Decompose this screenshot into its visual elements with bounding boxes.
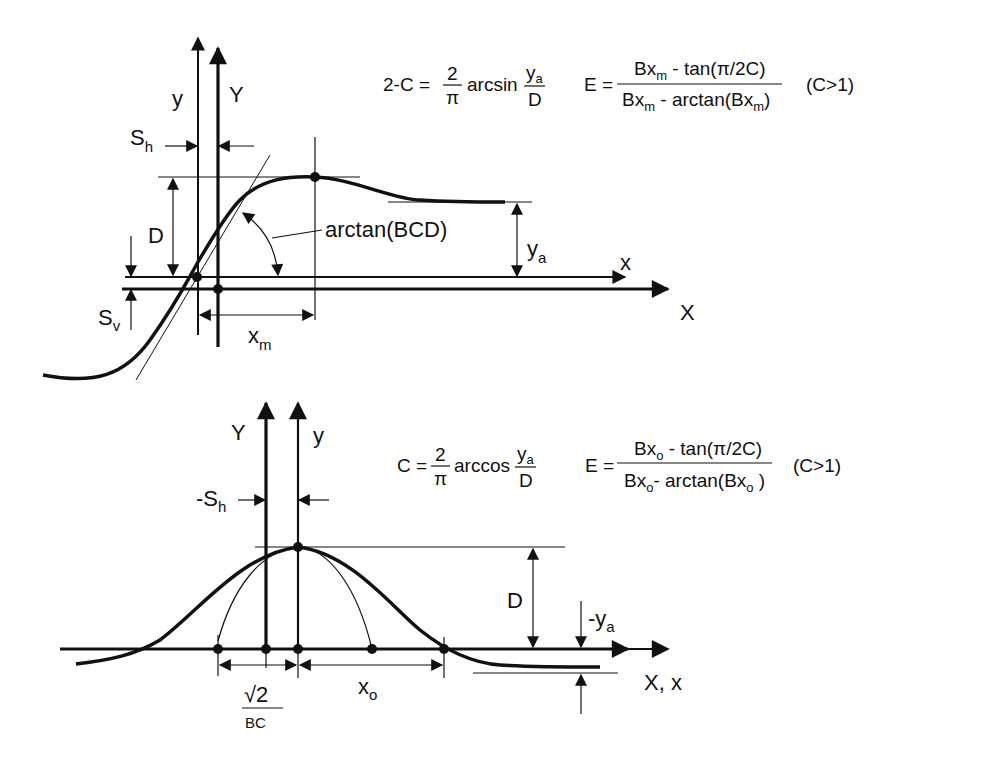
Xx-label: X, x	[644, 670, 682, 695]
local-origin-point	[192, 272, 202, 282]
zero-crossing-point	[439, 644, 449, 654]
svg-text:C =: C =	[397, 455, 427, 476]
svg-text:π: π	[446, 87, 459, 108]
equation-c-arcsin: 2-C = 2 π arcsin ya D	[383, 62, 545, 110]
bottom-diagram: -Sh √2 BC xo D -ya Y y X, x C = 2 π arcc…	[60, 403, 841, 731]
equation-e-bottom: E = Bxo - tan(π/2C) Bxo- arctan(Bxo ) (C…	[585, 438, 841, 495]
x-local-label: x	[620, 250, 631, 275]
sh-label: Sh	[130, 125, 153, 155]
width-num-label: √2	[244, 682, 268, 707]
y-local-label: y	[313, 423, 324, 448]
svg-text:D: D	[528, 89, 542, 110]
svg-text:(C>1): (C>1)	[806, 74, 854, 95]
svg-text:π: π	[434, 468, 447, 489]
slope-label: arctan(BCD)	[325, 217, 447, 242]
ya-label: -ya	[588, 606, 615, 635]
svg-text:ya: ya	[526, 62, 544, 86]
svg-text:arccos: arccos	[454, 455, 510, 476]
parabola-zero-point	[367, 644, 377, 654]
svg-text:Bxo- arctan(Bxo ): Bxo- arctan(Bxo )	[624, 470, 765, 495]
ya-label: ya	[527, 236, 547, 266]
peak-point	[310, 172, 320, 182]
peak-point	[293, 542, 303, 552]
sh-label: -Sh	[196, 486, 226, 515]
svg-text:(C>1): (C>1)	[793, 455, 841, 476]
svg-text:ya: ya	[517, 443, 535, 467]
top-diagram: Sh D Sv xm arctan(BCD) ya y Y x X 2-C = …	[43, 38, 854, 380]
width-den-label: BC	[245, 714, 266, 731]
svg-text:arcsin: arcsin	[467, 74, 518, 95]
slope-angle-arc	[243, 213, 278, 275]
Y-global-label: Y	[229, 82, 244, 107]
point-left	[213, 644, 223, 654]
svg-text:Bxm - arctan(Bxm): Bxm - arctan(Bxm)	[622, 89, 770, 114]
Y-global-label: Y	[231, 420, 246, 445]
X-global-label: X	[680, 300, 695, 325]
d-label: D	[148, 223, 164, 248]
svg-text:Bxo - tan(π/2C): Bxo - tan(π/2C)	[634, 438, 762, 463]
svg-text:2: 2	[435, 444, 446, 465]
magic-formula-diagram: Sh D Sv xm arctan(BCD) ya y Y x X 2-C = …	[0, 0, 1001, 770]
d-label: D	[507, 588, 523, 613]
sv-label: Sv	[98, 305, 121, 334]
local-origin-point	[293, 644, 303, 654]
global-origin-point	[213, 284, 223, 294]
parabola-curve	[218, 547, 372, 649]
y-local-label: y	[172, 86, 183, 111]
svg-text:Bxm - tan(π/2C): Bxm - tan(π/2C)	[634, 58, 766, 83]
svg-text:2-C =: 2-C =	[383, 74, 430, 95]
xm-label: xm	[248, 323, 272, 353]
svg-text:D: D	[519, 470, 533, 491]
svg-text:E =: E =	[585, 455, 614, 476]
svg-text:E =: E =	[584, 74, 613, 95]
xo-label: xo	[358, 674, 377, 703]
equation-c-arccos: C = 2 π arccos ya D	[397, 443, 536, 491]
equation-e-top: E = Bxm - tan(π/2C) Bxm - arctan(Bxm) (C…	[584, 58, 854, 114]
svg-text:2: 2	[447, 63, 458, 84]
